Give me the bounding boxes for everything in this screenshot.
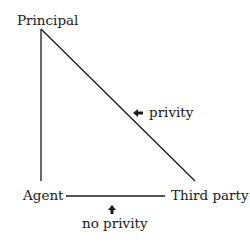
- node-agent: Agent: [23, 188, 64, 203]
- arrow-left-icon: [133, 109, 143, 117]
- diagram-lines: [0, 0, 250, 245]
- node-principal: Principal: [17, 13, 78, 28]
- label-no-privity: no privity: [82, 216, 148, 231]
- label-privity: privity: [149, 105, 193, 120]
- arrow-up-icon: [108, 205, 116, 214]
- node-third-party: Third party: [171, 188, 249, 203]
